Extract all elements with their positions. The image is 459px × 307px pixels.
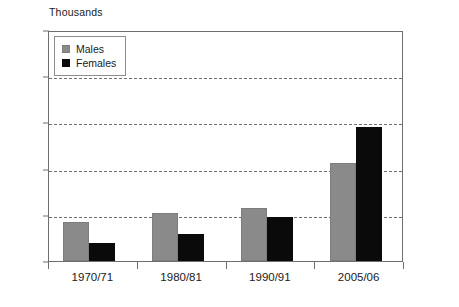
males-swatch-icon	[62, 45, 70, 53]
legend: Males Females	[54, 36, 126, 76]
legend-label-males: Males	[76, 43, 104, 56]
legend-item-males: Males	[62, 42, 116, 56]
x-tick-mark	[137, 262, 138, 269]
bar-1980-81-females	[178, 234, 204, 261]
bar-2005-06-females	[356, 127, 382, 261]
x-tick-label-2005-06: 2005/06	[338, 271, 380, 283]
females-swatch-icon	[62, 59, 70, 67]
gridline	[49, 124, 402, 125]
x-tick-mark	[314, 262, 315, 269]
bar-chart: Thousands 05001,0001,5002,0002,500 1970/…	[0, 0, 459, 307]
x-tick-mark	[48, 262, 49, 269]
bar-1990-91-females	[267, 217, 293, 261]
x-tick-label-1980-81: 1980/81	[160, 271, 202, 283]
x-tick-mark	[226, 262, 227, 269]
x-tick-label-1970-71: 1970/71	[72, 271, 114, 283]
y-axis-unit-label: Thousands	[49, 6, 103, 18]
bar-2005-06-males	[330, 163, 356, 261]
bar-1980-81-males	[152, 213, 178, 261]
x-tick-mark	[403, 262, 404, 269]
gridline	[49, 78, 402, 79]
legend-item-females: Females	[62, 56, 116, 70]
x-tick-label-1990-91: 1990/91	[249, 271, 291, 283]
bar-1990-91-males	[241, 208, 267, 261]
legend-label-females: Females	[76, 57, 116, 70]
bar-1970-71-females	[89, 243, 115, 261]
bar-1970-71-males	[63, 222, 89, 261]
